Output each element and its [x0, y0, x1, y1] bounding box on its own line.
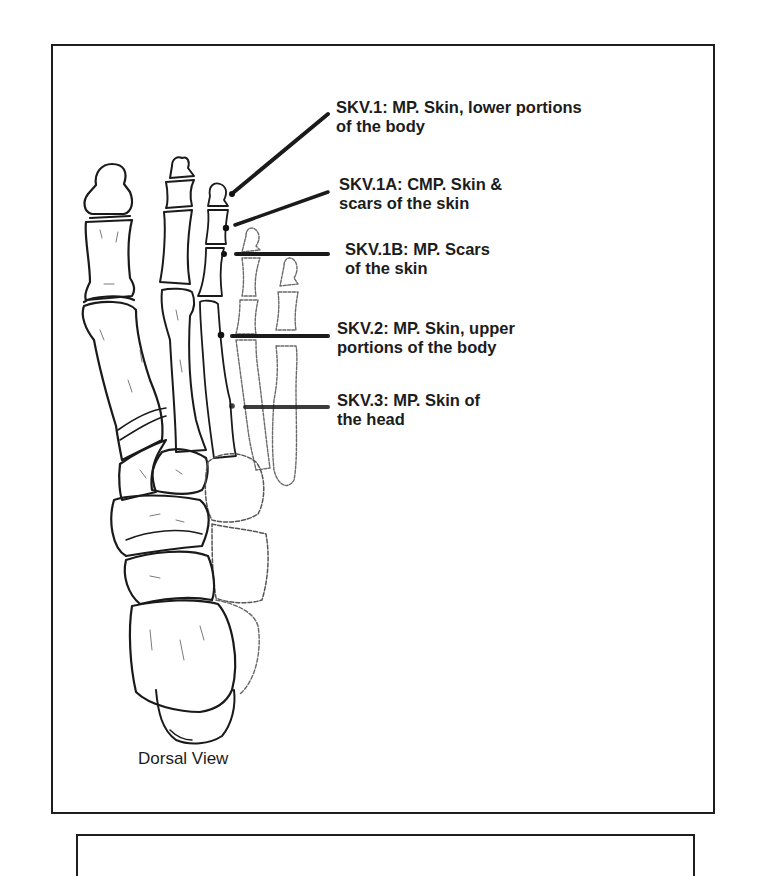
- third-toe: [198, 184, 236, 459]
- annotation-line: portions of the body: [337, 338, 515, 357]
- annotation-line: the head: [337, 410, 480, 429]
- point-marker-skv-1: [229, 191, 235, 197]
- annotation-label-skv-3: SKV.3: MP. Skin of the head: [337, 391, 480, 429]
- annotation-line: SKV.1B: MP. Scars: [345, 240, 490, 259]
- annotation-line: of the body: [336, 117, 582, 136]
- annotation-line: of the skin: [345, 259, 490, 278]
- calcaneus-bone: [130, 600, 235, 743]
- point-marker-skv-3: [229, 403, 235, 409]
- view-caption: Dorsal View: [138, 749, 228, 769]
- navicular-bone: [111, 496, 208, 557]
- calcaneus-lateral: [216, 600, 259, 694]
- annotation-line: SKV.1: MP. Skin, lower portions: [336, 98, 582, 117]
- annotation-label-skv-1: SKV.1: MP. Skin, lower portions of the b…: [336, 98, 582, 136]
- first-metatarsal: [83, 302, 166, 460]
- point-marker-skv-2: [218, 332, 225, 339]
- point-marker-skv-1b: [221, 251, 227, 257]
- annotation-line: SKV.2: MP. Skin, upper: [337, 319, 515, 338]
- cuneiform-bones: [119, 440, 207, 500]
- fourth-toe: [236, 228, 270, 470]
- second-toe: [160, 157, 206, 452]
- fifth-toe: [273, 258, 299, 485]
- annotation-label-skv-2: SKV.2: MP. Skin, upper portions of the b…: [337, 319, 515, 357]
- annotation-line: SKV.3: MP. Skin of: [337, 391, 480, 410]
- annotation-line: scars of the skin: [339, 194, 502, 213]
- annotation-label-skv-1a: SKV.1A: CMP. Skin & scars of the skin: [339, 175, 502, 213]
- annotation-line: SKV.1A: CMP. Skin &: [339, 175, 502, 194]
- annotation-label-skv-1b: SKV.1B: MP. Scars of the skin: [345, 240, 490, 278]
- point-marker-skv-1a: [223, 225, 229, 231]
- hallux-proximal-phalanx: [84, 220, 134, 302]
- leader-skv-1a: [235, 192, 328, 225]
- talus-bone: [125, 552, 214, 604]
- annotation-leaders: [232, 114, 328, 407]
- leader-skv-1: [234, 114, 328, 192]
- hallux-distal-phalanx: [85, 164, 132, 218]
